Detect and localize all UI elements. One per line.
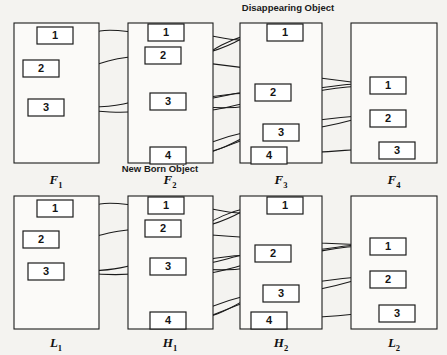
object-box[interactable]: 2 [23,60,59,77]
object-box[interactable]: 3 [28,263,64,280]
object-box-label: 4 [165,149,172,161]
panel-label-f3: F3 [274,172,288,190]
object-box-label: 3 [43,265,49,277]
object-box-label: 2 [38,62,44,74]
object-box[interactable]: 3 [263,124,299,141]
object-box[interactable]: 3 [263,285,299,302]
frame-panel-f3: 1234F3 [240,23,322,190]
object-box[interactable]: 3 [28,99,64,116]
object-box-label: 1 [163,26,169,38]
figure-root: 123F11234F21234F3123F4123L11234H11234H21… [0,0,447,355]
object-box[interactable]: 2 [255,84,291,101]
object-box[interactable]: 3 [379,305,415,322]
object-box-label: 1 [52,202,58,214]
object-box[interactable]: 4 [251,147,287,164]
object-box-label: 1 [282,26,288,38]
panel-label-l1: L1 [49,335,62,353]
frame-panel-f4: 123F4 [351,23,437,190]
panel-label-f2: F2 [163,172,177,190]
object-box[interactable]: 1 [37,200,73,217]
object-box[interactable]: 4 [251,312,287,329]
object-box-label: 2 [38,233,44,245]
object-box[interactable]: 1 [370,238,406,255]
panel-label-subscript: 2 [284,343,288,353]
object-box-label: 2 [160,49,166,61]
panel-label-subscript: 1 [58,180,62,190]
object-box[interactable]: 1 [267,24,303,41]
object-box-label: 3 [278,287,284,299]
object-box[interactable]: 2 [145,47,181,64]
object-correspondence-diagram: 123F11234F21234F3123F4123L11234H11234H21… [0,0,447,355]
panel-label-f1: F1 [49,172,63,190]
panels-layer: 123F11234F21234F3123F4123L11234H11234H21… [14,23,437,353]
panel-label-h1: H1 [162,335,177,353]
panel-label-subscript: 2 [172,180,176,190]
object-box-label: 4 [165,314,172,326]
panel-label-subscript: 1 [173,343,177,353]
object-box-label: 1 [52,29,58,41]
annotation-newborn: New Born Object [122,163,199,174]
object-box[interactable]: 1 [370,77,406,94]
object-box-label: 4 [266,314,273,326]
object-box[interactable]: 3 [150,93,186,110]
panel-label-f4: F4 [387,172,402,190]
panel-label-main: L [49,335,58,350]
panel-label-main: L [387,335,396,350]
object-box[interactable]: 1 [148,197,184,214]
object-box[interactable]: 2 [255,245,291,262]
panel-label-main: F [163,172,173,187]
object-box[interactable]: 3 [379,142,415,159]
annotation-disappearing: Disappearing Object [242,2,335,13]
object-box-label: 3 [394,307,400,319]
object-box-label: 1 [282,199,288,211]
panel-label-subscript: 1 [58,343,62,353]
object-box-label: 3 [165,260,171,272]
frame-panel-l1: 123L1 [14,196,99,353]
frame-panel-l2: 123L2 [351,196,437,353]
object-box[interactable]: 2 [23,231,59,248]
object-box-label: 3 [394,144,400,156]
object-box-label: 3 [278,126,284,138]
object-box-label: 2 [160,222,166,234]
object-box[interactable]: 1 [37,27,73,44]
object-box-label: 2 [270,86,276,98]
object-box[interactable]: 2 [370,110,406,127]
frame-panel-h1: 1234H1 [128,196,213,353]
object-box-label: 2 [385,112,391,124]
panel-label-subscript: 4 [396,180,401,190]
object-box[interactable]: 2 [370,271,406,288]
panel-label-main: F [274,172,284,187]
panel-label-subscript: 3 [283,180,287,190]
object-box[interactable]: 2 [145,220,181,237]
object-box-label: 1 [385,240,391,252]
panel-label-l2: L2 [387,335,400,353]
panel-label-main: F [49,172,59,187]
frame-panel-h2: 1234H2 [240,196,322,353]
panel-label-subscript: 2 [396,343,400,353]
object-box-label: 3 [165,95,171,107]
object-box-label: 1 [163,199,169,211]
object-box[interactable]: 3 [150,258,186,275]
frame-panel-f1: 123F1 [14,23,99,190]
panel-label-main: F [387,172,397,187]
object-box-label: 3 [43,101,49,113]
object-box[interactable]: 4 [150,312,186,329]
object-box-label: 4 [266,149,273,161]
object-box-label: 2 [385,273,391,285]
object-box[interactable]: 1 [148,24,184,41]
object-box-label: 1 [385,79,391,91]
object-box[interactable]: 1 [267,197,303,214]
panel-label-h2: H2 [273,335,288,353]
object-box-label: 2 [270,247,276,259]
object-box[interactable]: 4 [150,147,186,164]
links-layer [63,30,376,321]
